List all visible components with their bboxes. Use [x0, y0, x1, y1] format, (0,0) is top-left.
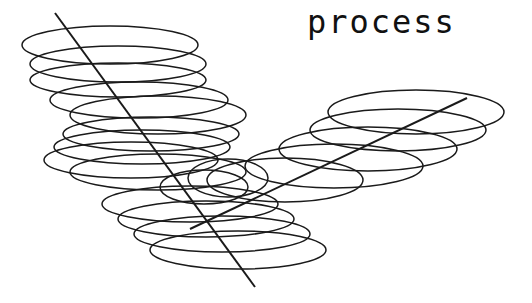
coil-diagram: [0, 0, 532, 303]
left-coil-ellipse: [50, 82, 228, 118]
right-coil-ellipse: [207, 158, 363, 202]
left-coil-stack: [22, 26, 326, 269]
diagram-title: process: [307, 6, 456, 38]
left-coil-ellipse: [30, 63, 206, 97]
left-coil-ellipse: [70, 96, 246, 134]
left-coil-ellipse: [22, 26, 198, 64]
right-coil-ellipse: [245, 144, 423, 188]
